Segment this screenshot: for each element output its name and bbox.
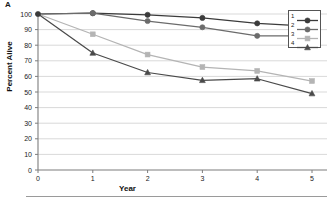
y-tick-label: 20	[12, 135, 32, 142]
y-tick-label: 40	[12, 104, 32, 111]
x-tick-label: 0	[31, 175, 45, 182]
x-tick-label: 2	[141, 175, 155, 182]
x-tick-label: 5	[305, 175, 319, 182]
y-tick-label: 30	[12, 120, 32, 127]
x-tick-label: 4	[250, 175, 264, 182]
axes	[35, 13, 327, 173]
y-tick-label: 60	[12, 73, 32, 80]
legend-marker-4	[296, 43, 320, 52]
legend-swatch-3	[296, 29, 320, 38]
y-tick-label: 50	[12, 89, 32, 96]
y-tick-label: 80	[12, 42, 32, 49]
legend-item-1[interactable]: 1	[289, 11, 320, 20]
survival-chart: A Percent Alive Year 0102030405060708090…	[0, 0, 327, 199]
y-tick-label: 90	[12, 26, 32, 33]
x-tick-label: 3	[195, 175, 209, 182]
legend-item-3[interactable]: 3	[289, 29, 320, 38]
legend-item-2[interactable]: 2	[289, 20, 320, 29]
plot-area	[0, 0, 327, 199]
legend[interactable]: 1 2 3 4	[288, 10, 321, 48]
x-tick-label: 1	[86, 175, 100, 182]
y-tick-label: 100	[12, 11, 32, 18]
series-layer	[35, 11, 315, 96]
legend-swatch-2	[296, 20, 320, 29]
y-tick-label: 70	[12, 57, 32, 64]
y-tick-label: 0	[12, 167, 32, 174]
legend-swatch-1	[296, 11, 320, 20]
legend-item-4[interactable]: 4	[289, 38, 320, 47]
y-tick-label: 10	[12, 151, 32, 158]
legend-swatch-4	[296, 38, 320, 47]
bottom-rule	[26, 196, 327, 197]
gridlines	[38, 14, 327, 154]
